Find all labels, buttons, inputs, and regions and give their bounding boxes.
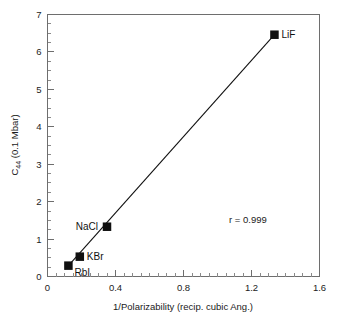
scatter-plot-svg: 00.40.81.21.601234567 RbIKBrNaClLiF 1/Po… [0, 0, 338, 323]
svg-text:C44 (0.1 Mbar): C44 (0.1 Mbar) [9, 114, 22, 175]
data-point-label: KBr [87, 251, 104, 262]
y-tick-label: 3 [36, 159, 41, 170]
x-tick-label: 0.8 [177, 282, 190, 293]
x-tick-label: 0 [45, 282, 50, 293]
chart-figure: 00.40.81.21.601234567 RbIKBrNaClLiF 1/Po… [0, 0, 338, 323]
axis-ticks: 00.40.81.21.601234567 [36, 9, 326, 293]
x-axis-title: 1/Polarizability (recip. cubic Ang.) [113, 301, 253, 312]
y-tick-label: 6 [36, 46, 41, 57]
x-tick-label: 1.2 [245, 282, 258, 293]
y-tick-label: 7 [36, 9, 41, 20]
plot-frame [48, 15, 320, 277]
correlation-annotation: r = 0.999 [229, 214, 267, 225]
data-point-marker [76, 252, 85, 260]
data-point-label: LiF [281, 29, 295, 40]
data-point-label: RbI [74, 267, 90, 278]
data-point-marker [103, 222, 112, 231]
y-tick-label: 0 [36, 271, 41, 282]
data-point-marker [270, 30, 279, 38]
regression-line [65, 35, 274, 269]
data-point-marker [64, 261, 73, 270]
x-tick-label: 1.6 [313, 282, 326, 293]
x-tick-label: 0.4 [109, 282, 122, 293]
y-axis-title-tail: (0.1 Mbar) [9, 114, 20, 160]
y-axis-title-subscript: 44 [15, 161, 22, 169]
data-point-label: NaCl [76, 221, 98, 232]
y-tick-label: 4 [36, 121, 41, 132]
y-axis-title: C44 (0.1 Mbar) [9, 114, 22, 175]
y-tick-label: 1 [36, 234, 41, 245]
data-point-labels: RbIKBrNaClLiF [74, 29, 295, 277]
y-tick-label: 2 [36, 196, 41, 207]
y-tick-label: 5 [36, 84, 41, 95]
